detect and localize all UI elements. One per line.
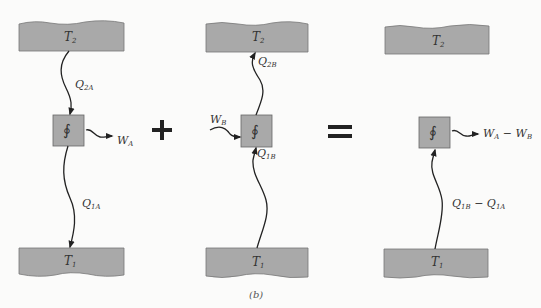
cycle-integral-icon-b: ∮ — [251, 124, 259, 139]
heat-arrow-q1a — [64, 146, 75, 247]
work-label-wb: WB — [210, 114, 226, 127]
equals-operator — [328, 125, 352, 138]
work-label-wa: WA — [117, 135, 133, 148]
heat-arrow-q1b — [253, 148, 267, 248]
heat-label-q1b-minus-q1a: Q1B − Q1A — [452, 198, 505, 211]
plus-operator — [152, 120, 172, 140]
cycle-integral-icon-c: ∮ — [429, 125, 437, 140]
heat-arrow-q2a — [61, 51, 71, 114]
work-label-wa-minus-wb: WA − WB — [483, 128, 532, 141]
cold-reservoir-c-label: T1 — [431, 256, 443, 270]
heat-label-q1a: Q1A — [82, 198, 101, 211]
cold-reservoir-a-label: T1 — [64, 255, 76, 269]
work-arrow-wa — [86, 130, 112, 138]
work-arrow-wb — [210, 127, 240, 137]
hot-reservoir-c-label: T2 — [432, 35, 444, 49]
heat-arrow-q1b-minus-q1a — [432, 150, 443, 249]
cold-reservoir-b-label: T1 — [252, 256, 264, 270]
hot-reservoir-a-label: T2 — [64, 31, 76, 45]
heat-label-q1b: Q1B — [257, 148, 276, 161]
figure-caption: (b) — [249, 289, 263, 300]
cycle-integral-icon-a: ∮ — [63, 123, 71, 138]
heat-label-q2b: Q2B — [258, 56, 277, 69]
hot-reservoir-b-label: T2 — [252, 31, 264, 45]
panel-combined — [384, 25, 489, 279]
heat-label-q2a: Q2A — [75, 79, 94, 92]
work-arrow-wa-minus-wb — [452, 130, 478, 136]
panel-engine-a — [19, 21, 124, 277]
